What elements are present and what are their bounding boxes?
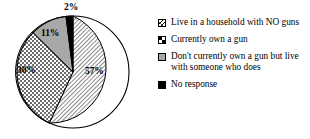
legend-item-no-response: No response [158, 79, 308, 90]
diagonal-hatch-swatch-icon [158, 19, 166, 27]
legend-item-no-guns-household: Live in a household with NO guns [158, 17, 308, 28]
legend-label-live-with-gun-owner: Don't currently own a gun but live with … [171, 51, 308, 73]
solid-gray-swatch-icon [158, 53, 166, 61]
legend-label-no-guns-household: Live in a household with NO guns [171, 17, 299, 28]
legend-item-currently-own-gun: Currently own a gun [158, 34, 308, 45]
pie-slice-label-no-guns-household: 57% [85, 67, 104, 77]
solid-black-swatch-icon [158, 81, 166, 89]
legend-label-no-response: No response [171, 79, 217, 90]
legend: Live in a household with NO guns Current… [158, 17, 308, 90]
legend-item-live-with-gun-owner: Don't currently own a gun but live with … [158, 51, 308, 73]
pie-chart-graphic: 57% 30% 11% 2% [0, 0, 152, 139]
pie-slice-label-live-with-gun-owner: 11% [41, 29, 59, 39]
pie-slice-label-currently-own-gun: 30% [17, 66, 36, 76]
pie-chart-figure: 57% 30% 11% 2% Live in a household with … [0, 0, 310, 139]
checkerboard-swatch-icon [158, 36, 166, 44]
pie-slice-label-no-response: 2% [64, 3, 78, 13]
legend-label-currently-own-gun: Currently own a gun [171, 34, 248, 45]
